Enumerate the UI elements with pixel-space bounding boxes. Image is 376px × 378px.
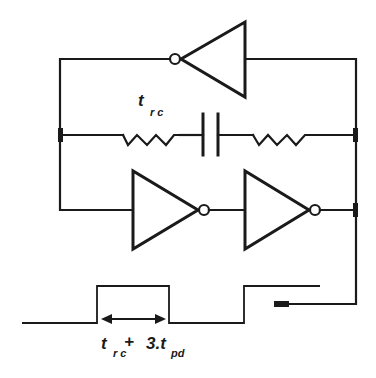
svg-text:+: + xyxy=(124,332,134,351)
svg-text:pd: pd xyxy=(170,347,185,359)
junction-right-output xyxy=(353,203,358,217)
inverter-bottom-2-bubble xyxy=(310,205,320,215)
inverter-bottom-1 xyxy=(133,171,209,249)
rc-branch xyxy=(58,114,358,155)
circuit-diagram: t r c t r c + 3.t pd xyxy=(0,0,376,378)
inverter-top-bubble xyxy=(170,54,180,64)
inverter-bottom-2 xyxy=(245,171,320,249)
resistor-right xyxy=(253,135,311,145)
svg-text:t: t xyxy=(138,91,145,110)
svg-text:3.t: 3.t xyxy=(146,334,167,353)
junction-left-rc xyxy=(58,128,63,142)
inverter-top xyxy=(170,22,245,97)
junction-right-rc xyxy=(353,128,358,142)
output-terminal xyxy=(274,301,289,307)
svg-text:t: t xyxy=(101,334,108,353)
capacitor xyxy=(203,114,218,155)
svg-text:r c: r c xyxy=(150,106,163,118)
inverter-bottom-1-bubble xyxy=(199,205,209,215)
pulse-width-label: t r c + 3.t pd xyxy=(101,332,185,359)
resistor-left xyxy=(123,135,180,145)
pulse-width-arrow xyxy=(101,314,166,324)
rc-time-label: t r c xyxy=(138,91,163,118)
top-feedback-wires xyxy=(60,59,356,304)
